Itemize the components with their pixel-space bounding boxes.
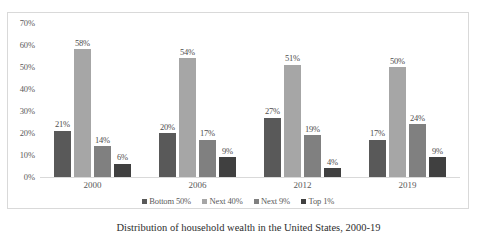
chart-legend: Bottom 50%Next 40%Next 9%Top 1% <box>8 197 468 206</box>
bar[interactable] <box>54 131 71 177</box>
bar-column: 58% <box>74 23 91 177</box>
legend-swatch-icon <box>254 199 259 204</box>
x-axis: 2000200620122019 <box>40 181 460 195</box>
bar[interactable] <box>429 157 446 177</box>
x-axis-tick: 2006 <box>189 181 207 190</box>
legend-swatch-icon <box>142 199 147 204</box>
legend-item[interactable]: Bottom 50% <box>142 197 191 206</box>
bar-value-label: 21% <box>55 120 70 129</box>
y-axis-tick: 60% <box>20 41 35 50</box>
legend-item[interactable]: Next 40% <box>202 197 243 206</box>
bar-group: 27%51%19%4% <box>250 23 355 177</box>
y-axis-tick: 70% <box>20 19 35 28</box>
bar-value-label: 24% <box>410 114 425 123</box>
legend-label: Bottom 50% <box>149 197 191 206</box>
bar-group: 20%54%17%9% <box>145 23 250 177</box>
bar[interactable] <box>159 133 176 177</box>
bar-column: 9% <box>429 23 446 177</box>
bar[interactable] <box>74 49 91 177</box>
figure-caption: Distribution of household wealth in the … <box>0 222 497 233</box>
bar-value-label: 50% <box>390 57 405 66</box>
bar-value-label: 58% <box>75 39 90 48</box>
bar-column: 6% <box>114 23 131 177</box>
bar[interactable] <box>199 140 216 177</box>
bar-column: 27% <box>264 23 281 177</box>
bar-value-label: 9% <box>222 147 233 156</box>
bar[interactable] <box>324 168 341 177</box>
bar-column: 50% <box>389 23 406 177</box>
bar-column: 4% <box>324 23 341 177</box>
bar[interactable] <box>369 140 386 177</box>
bar[interactable] <box>219 157 236 177</box>
bar-value-label: 9% <box>432 147 443 156</box>
bar-column: 19% <box>304 23 321 177</box>
legend-label: Next 9% <box>261 197 290 206</box>
bar[interactable] <box>284 65 301 177</box>
legend-item[interactable]: Top 1% <box>301 197 334 206</box>
y-axis: 0%10%20%30%40%50%60%70% <box>8 23 38 177</box>
x-axis-tick: 2019 <box>399 181 417 190</box>
legend-swatch-icon <box>301 199 306 204</box>
x-axis-line <box>40 177 460 178</box>
bar[interactable] <box>114 164 131 177</box>
x-axis-tick: 2000 <box>84 181 102 190</box>
chart-container: 0%10%20%30%40%50%60%70% 21%58%14%6%20%54… <box>7 12 469 209</box>
legend-label: Next 40% <box>210 197 243 206</box>
bar-value-label: 14% <box>95 136 110 145</box>
y-axis-tick: 0% <box>24 173 35 182</box>
y-axis-tick: 30% <box>20 107 35 116</box>
bar[interactable] <box>264 118 281 177</box>
bar-value-label: 19% <box>305 125 320 134</box>
bar[interactable] <box>94 146 111 177</box>
bar-value-label: 17% <box>200 129 215 138</box>
bar-column: 24% <box>409 23 426 177</box>
bar-column: 9% <box>219 23 236 177</box>
y-axis-tick: 20% <box>20 129 35 138</box>
bar-column: 51% <box>284 23 301 177</box>
bar-value-label: 27% <box>265 107 280 116</box>
bar-column: 17% <box>199 23 216 177</box>
legend-swatch-icon <box>202 199 207 204</box>
bar-value-label: 20% <box>160 123 175 132</box>
bar[interactable] <box>409 124 426 177</box>
bar-value-label: 4% <box>327 158 338 167</box>
bar-column: 20% <box>159 23 176 177</box>
bar-group: 17%50%24%9% <box>355 23 460 177</box>
x-axis-tick: 2012 <box>294 181 312 190</box>
bar[interactable] <box>304 135 321 177</box>
bar-value-label: 17% <box>370 129 385 138</box>
bar-value-label: 54% <box>180 48 195 57</box>
bar-column: 14% <box>94 23 111 177</box>
bar-column: 54% <box>179 23 196 177</box>
bar-value-label: 6% <box>117 153 128 162</box>
y-axis-tick: 10% <box>20 151 35 160</box>
bar-group: 21%58%14%6% <box>40 23 145 177</box>
y-axis-tick: 50% <box>20 63 35 72</box>
y-axis-tick: 40% <box>20 85 35 94</box>
bar[interactable] <box>179 58 196 177</box>
plot-area: 21%58%14%6%20%54%17%9%27%51%19%4%17%50%2… <box>40 23 460 177</box>
bar-value-label: 51% <box>285 54 300 63</box>
bar-column: 17% <box>369 23 386 177</box>
legend-item[interactable]: Next 9% <box>254 197 290 206</box>
legend-label: Top 1% <box>309 197 335 206</box>
bar-column: 21% <box>54 23 71 177</box>
bar[interactable] <box>389 67 406 177</box>
